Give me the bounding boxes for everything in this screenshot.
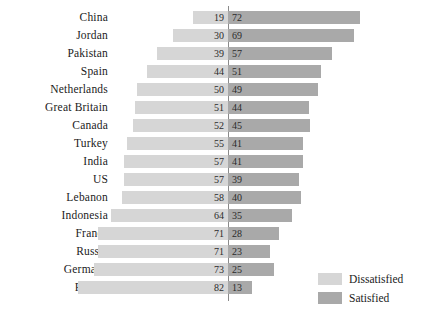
value-label-dissatisfied: 55 (198, 137, 224, 150)
chart-row: Canada5245 (0, 116, 430, 134)
value-label-dissatisfied: 19 (198, 11, 224, 24)
value-label-satisfied: 23 (232, 245, 258, 258)
value-label-satisfied: 51 (232, 65, 258, 78)
value-label-dissatisfied: 57 (198, 173, 224, 186)
bar-group: 5840 (0, 191, 430, 204)
value-label-dissatisfied: 71 (198, 245, 224, 258)
value-label-dissatisfied: 30 (198, 29, 224, 42)
bar-group: 7128 (0, 227, 430, 240)
bar-group: 3957 (0, 47, 430, 60)
value-label-satisfied: 40 (232, 191, 258, 204)
chart-legend: Dissatisfied Satisfied (318, 271, 422, 309)
chart-row: Great Britain5144 (0, 98, 430, 116)
bar-group: 3069 (0, 29, 430, 42)
bar-group: 5741 (0, 155, 430, 168)
bar-group: 5541 (0, 137, 430, 150)
chart-row: India5741 (0, 152, 430, 170)
bar-group: 1972 (0, 11, 430, 24)
value-label-satisfied: 69 (232, 29, 258, 42)
legend-item-dissatisfied: Dissatisfied (318, 271, 422, 287)
value-label-dissatisfied: 57 (198, 155, 224, 168)
value-label-satisfied: 45 (232, 119, 258, 132)
value-label-dissatisfied: 50 (198, 83, 224, 96)
chart-row: China1972 (0, 8, 430, 26)
legend-item-satisfied: Satisfied (318, 290, 422, 306)
bar-group: 7123 (0, 245, 430, 258)
value-label-satisfied: 41 (232, 137, 258, 150)
value-label-satisfied: 57 (232, 47, 258, 60)
chart-row: Pakistan3957 (0, 44, 430, 62)
bar-group: 6435 (0, 209, 430, 222)
chart-row: Russia7123 (0, 242, 430, 260)
value-label-dissatisfied: 73 (198, 263, 224, 276)
chart-row: Netherlands5049 (0, 80, 430, 98)
bar-group: 4451 (0, 65, 430, 78)
legend-swatch-dissatisfied (318, 273, 342, 285)
chart-row: US5739 (0, 170, 430, 188)
value-label-satisfied: 49 (232, 83, 258, 96)
value-label-satisfied: 25 (232, 263, 258, 276)
value-label-dissatisfied: 51 (198, 101, 224, 114)
bar-group: 5739 (0, 173, 430, 186)
value-label-satisfied: 13 (232, 281, 258, 294)
bar-group: 5144 (0, 101, 430, 114)
legend-label-satisfied: Satisfied (349, 290, 389, 306)
value-label-dissatisfied: 44 (198, 65, 224, 78)
chart-row: Jordan3069 (0, 26, 430, 44)
value-label-dissatisfied: 58 (198, 191, 224, 204)
chart-row: Indonesia6435 (0, 206, 430, 224)
bar-group: 5245 (0, 119, 430, 132)
value-label-dissatisfied: 39 (198, 47, 224, 60)
value-label-dissatisfied: 82 (198, 281, 224, 294)
legend-swatch-satisfied (318, 292, 342, 304)
value-label-satisfied: 44 (232, 101, 258, 114)
value-label-satisfied: 39 (232, 173, 258, 186)
value-label-dissatisfied: 71 (198, 227, 224, 240)
chart-row: Spain4451 (0, 62, 430, 80)
chart-row: Lebanon5840 (0, 188, 430, 206)
legend-label-dissatisfied: Dissatisfied (349, 271, 403, 287)
value-label-satisfied: 41 (232, 155, 258, 168)
value-label-dissatisfied: 64 (198, 209, 224, 222)
value-label-satisfied: 28 (232, 227, 258, 240)
chart-row: Turkey5541 (0, 134, 430, 152)
bar-group: 5049 (0, 83, 430, 96)
value-label-satisfied: 72 (232, 11, 258, 24)
value-label-satisfied: 35 (232, 209, 258, 222)
chart-row: France7128 (0, 224, 430, 242)
value-label-dissatisfied: 52 (198, 119, 224, 132)
diverging-bar-chart: China1972Jordan3069Pakistan3957Spain4451… (0, 0, 430, 321)
